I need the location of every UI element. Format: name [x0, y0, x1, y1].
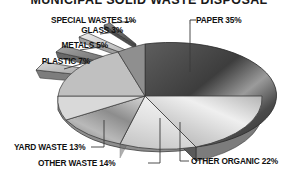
- slice-label-special-wastes: SPECIAL WASTES 1%: [51, 16, 136, 25]
- pie-chart-figure: MUNICIPAL SOLID WASTE DISPOSAL: [0, 0, 298, 176]
- slice-label-other-waste: OTHER WASTE 14%: [38, 159, 116, 168]
- slice-label-glass: GLASS 3%: [81, 26, 123, 35]
- slice-label-other-organic: OTHER ORGANIC 22%: [191, 157, 278, 166]
- slice-label-plastic: PLASTIC 7%: [42, 57, 90, 66]
- slice-label-paper: PAPER 35%: [196, 16, 242, 25]
- slice-label-metals: METALS 5%: [62, 41, 108, 50]
- slice-label-yard-waste: YARD WASTE 13%: [14, 143, 85, 152]
